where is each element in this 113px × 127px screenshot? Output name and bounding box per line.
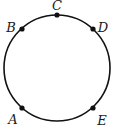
point-c-dot: [54, 12, 59, 17]
points-group: ABCDE: [5, 0, 109, 126]
point-a-dot: [19, 105, 24, 110]
point-b-dot: [19, 26, 24, 31]
point-a-label: A: [7, 112, 17, 127]
point-d-dot: [90, 26, 95, 31]
point-e-dot: [90, 105, 95, 110]
point-b-label: B: [5, 20, 16, 35]
point-e-label: E: [96, 113, 107, 127]
diagram-canvas: ABCDE: [0, 0, 113, 126]
point-d-label: D: [97, 20, 109, 35]
circle-diagram: ABCDE: [0, 0, 113, 126]
point-c-label: C: [52, 0, 62, 13]
